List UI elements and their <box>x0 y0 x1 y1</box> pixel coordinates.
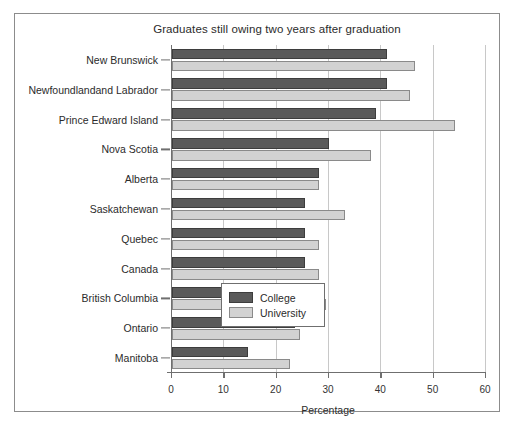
x-tick-mark-60 <box>485 372 486 378</box>
bar-college <box>172 78 387 89</box>
bar-group: Canada <box>171 254 485 284</box>
legend-label: University <box>260 307 306 319</box>
y-tick-mark <box>161 328 170 329</box>
y-axis-category-label: Newfoundlandand Labrador <box>28 84 158 96</box>
bar-college <box>172 198 305 209</box>
y-axis-category-label: British Columbia <box>82 292 158 304</box>
y-axis-category-label: Saskatchewan <box>90 203 158 215</box>
bar-college <box>172 49 387 60</box>
legend-entry: College <box>229 290 316 305</box>
y-tick-mark <box>161 268 170 269</box>
chart-legend: CollegeUniversity <box>221 283 325 327</box>
bar-university <box>172 210 345 221</box>
y-tick-mark <box>161 208 170 209</box>
x-axis-title: Percentage <box>171 404 485 416</box>
y-tick-mark <box>161 179 170 180</box>
x-tick-label-50: 50 <box>427 384 438 395</box>
bar-group: Prince Edward Island <box>171 105 485 135</box>
x-tick-label-60: 60 <box>479 384 490 395</box>
x-tick-label-20: 20 <box>270 384 281 395</box>
bar-college <box>172 257 305 268</box>
legend-swatch-university <box>229 307 253 318</box>
y-axis-category-label: Canada <box>121 263 158 275</box>
bar-group: Newfoundlandand Labrador <box>171 75 485 105</box>
bar-group: Nova Scotia <box>171 134 485 164</box>
bar-university <box>172 150 371 161</box>
y-tick-mark <box>161 149 170 150</box>
chart-title: Graduates still owing two years after gr… <box>15 23 499 35</box>
bar-group: Quebec <box>171 224 485 254</box>
bar-group: Ontario <box>171 313 485 343</box>
bar-group: British Columbia <box>171 284 485 314</box>
legend-swatch-college <box>229 292 253 303</box>
y-tick-mark <box>161 238 170 239</box>
y-axis-category-label: Manitoba <box>115 352 158 364</box>
bar-university <box>172 240 319 251</box>
bar-college <box>172 108 376 119</box>
bar-university <box>172 61 415 72</box>
bar-college <box>172 138 329 149</box>
plot-area: 0102030405060 New BrunswickNewfoundlanda… <box>171 45 485 373</box>
x-tick-label-30: 30 <box>322 384 333 395</box>
bar-college <box>172 347 248 358</box>
chart-figure-frame: Graduates still owing two years after gr… <box>14 13 500 412</box>
y-tick-mark <box>161 298 170 299</box>
bar-college <box>172 168 319 179</box>
y-axis-category-label: Alberta <box>125 173 158 185</box>
legend-label: College <box>260 292 296 304</box>
y-tick-mark <box>161 59 170 60</box>
y-tick-mark <box>161 357 170 358</box>
legend-entry: University <box>229 305 316 320</box>
y-axis-category-label: Quebec <box>121 233 158 245</box>
y-axis-category-label: Ontario <box>124 322 158 334</box>
bar-college <box>172 228 305 239</box>
bar-university <box>172 180 319 191</box>
bar-university <box>172 329 300 340</box>
bar-group: Manitoba <box>171 343 485 373</box>
x-tick-label-10: 10 <box>218 384 229 395</box>
bar-group: Alberta <box>171 164 485 194</box>
bar-group: New Brunswick <box>171 45 485 75</box>
y-tick-mark <box>161 89 170 90</box>
bar-university <box>172 120 455 131</box>
x-tick-label-40: 40 <box>375 384 386 395</box>
y-axis-category-label: Prince Edward Island <box>59 114 158 126</box>
gridline-60 <box>485 45 486 373</box>
bar-university <box>172 90 410 101</box>
y-tick-mark <box>161 119 170 120</box>
y-axis-category-label: Nova Scotia <box>101 143 158 155</box>
bar-group: Saskatchewan <box>171 194 485 224</box>
bar-university <box>172 269 319 280</box>
y-axis-category-label: New Brunswick <box>86 54 158 66</box>
bar-university <box>172 359 290 370</box>
x-tick-label-0: 0 <box>168 384 174 395</box>
